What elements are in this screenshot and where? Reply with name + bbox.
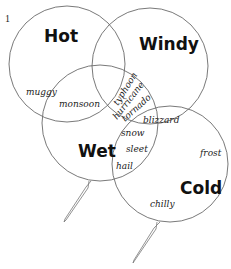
windy-label: Windy: [139, 34, 199, 54]
word-monsoon: monsoon: [59, 99, 100, 109]
wet-label: Wet: [78, 141, 116, 161]
wet-balloon-string: [64, 181, 91, 222]
word-muggy: muggy: [26, 87, 58, 97]
cold-label: Cold: [180, 178, 222, 198]
venn-diagram: 1 Hot Windy Wet Cold muggy monsoon typho…: [0, 0, 231, 269]
figure-number: 1: [5, 13, 10, 24]
hot-label: Hot: [44, 26, 78, 46]
word-sleet: sleet: [126, 144, 148, 154]
word-snow: snow: [121, 128, 145, 138]
word-blizzard: blizzard: [143, 115, 180, 125]
cold-balloon-string: [133, 222, 160, 263]
word-frost: frost: [199, 148, 222, 158]
word-hail: hail: [116, 161, 133, 171]
word-chilly: chilly: [150, 199, 175, 209]
